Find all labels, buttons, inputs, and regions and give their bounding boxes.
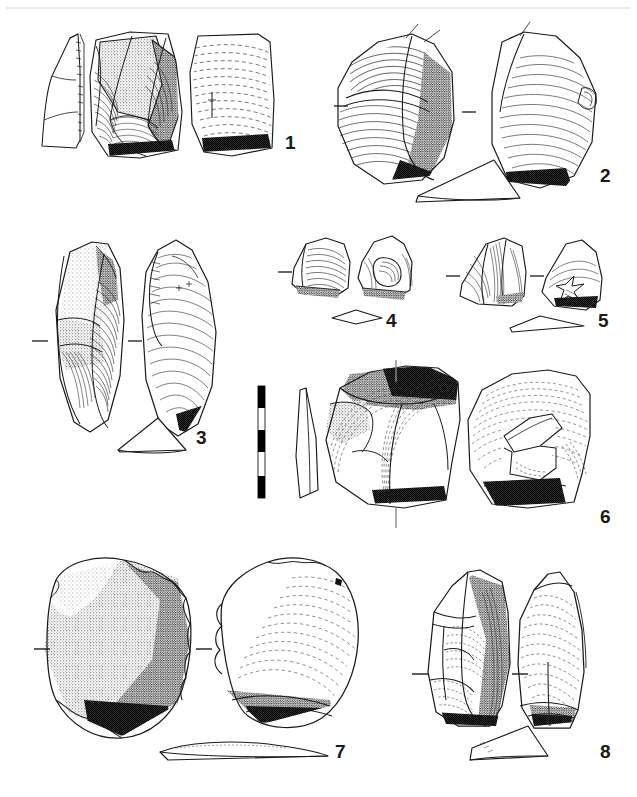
artifact-8-ventral <box>514 560 598 740</box>
lithic-drawings-canvas <box>0 0 637 797</box>
artifact-4-dorsal <box>292 238 350 298</box>
artifact-label-8: 8 <box>600 742 611 761</box>
artifact-5-section <box>510 316 584 332</box>
artifact-3-ventral <box>136 232 222 442</box>
artifact-2-dorsal <box>330 24 460 190</box>
artifact-label-3: 3 <box>196 428 207 447</box>
artifact-label-1: 1 <box>285 133 296 152</box>
artifact-7-dorsal <box>36 550 204 750</box>
artifact-7-section <box>160 742 328 760</box>
artifact-4-ventral <box>358 236 412 300</box>
artifact-3 <box>32 232 222 453</box>
artifact-7-ventral <box>206 550 366 740</box>
artifact-6-section <box>296 388 318 498</box>
scale-bar <box>258 386 265 498</box>
artifact-8-dorsal <box>420 560 520 740</box>
artifact-8-section <box>470 726 548 760</box>
artifact-5-ventral <box>542 240 602 310</box>
artifact-5 <box>446 238 602 332</box>
artifact-6-ventral <box>466 360 604 512</box>
artifact-label-5: 5 <box>598 311 609 330</box>
lithic-figure-plate: 1 2 3 4 5 6 7 8 <box>0 0 637 797</box>
artifact-8 <box>412 560 598 760</box>
artifact-1-profile <box>42 34 84 148</box>
figure-caption <box>6 788 306 797</box>
artifact-5-dorsal <box>460 238 526 306</box>
artifact-4-section <box>332 310 382 324</box>
artifact-label-7: 7 <box>335 742 346 761</box>
artifact-1-dorsal <box>88 30 188 162</box>
artifact-3-dorsal <box>50 234 136 440</box>
artifact-label-2: 2 <box>600 166 611 185</box>
artifact-1 <box>42 30 280 162</box>
artifact-6-dorsal <box>318 360 468 510</box>
artifact-2 <box>330 22 604 202</box>
artifact-1-ventral <box>188 30 280 162</box>
artifact-label-4: 4 <box>386 311 397 330</box>
artifact-6 <box>296 360 604 528</box>
artifact-7 <box>34 550 366 760</box>
artifact-label-6: 6 <box>600 507 611 526</box>
